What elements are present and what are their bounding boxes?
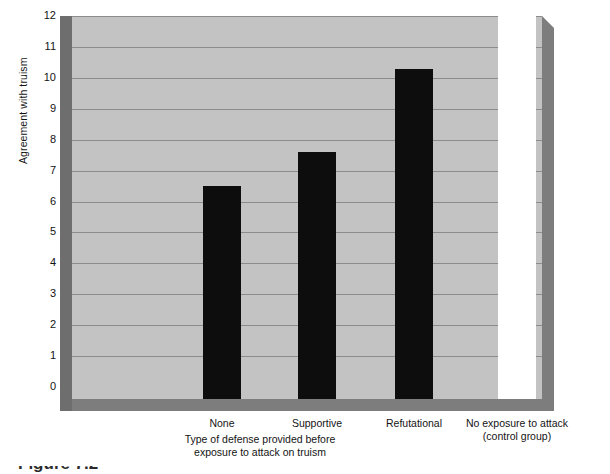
y-axis-tick-label: 3 bbox=[30, 287, 56, 300]
y-axis-tick-label: 6 bbox=[30, 195, 56, 208]
x-axis-title: Type of defense provided before exposure… bbox=[130, 433, 390, 459]
bar bbox=[298, 152, 336, 399]
plot-area bbox=[72, 16, 542, 399]
gridline bbox=[72, 109, 542, 110]
y-axis-tick-label: 7 bbox=[30, 164, 56, 177]
bar bbox=[203, 186, 241, 399]
gridline bbox=[72, 140, 542, 141]
x-axis-tick-label: No exposure to attack(control group) bbox=[442, 417, 592, 443]
y-axis-tick-label: 5 bbox=[30, 225, 56, 238]
y-axis-tick-label: 11 bbox=[30, 40, 56, 53]
y-axis-tick-label: 4 bbox=[30, 256, 56, 269]
y-axis-tick-label: 10 bbox=[30, 71, 56, 84]
y-axis-tick-labels: 1211109876543210 bbox=[30, 24, 56, 401]
gridline bbox=[72, 47, 542, 48]
bar bbox=[498, 16, 536, 399]
x-axis-tick-label-line: (control group) bbox=[442, 430, 592, 443]
bar-chart-figure: Agreement with truism 1211109876543210 N… bbox=[0, 0, 610, 474]
x-axis-tick-label-line: No exposure to attack bbox=[466, 417, 568, 429]
gridline bbox=[72, 78, 542, 79]
x-axis-title-line-2: exposure to attack on truism bbox=[130, 446, 390, 459]
y-axis-tick-label: 2 bbox=[30, 318, 56, 331]
bar bbox=[395, 69, 433, 399]
y-axis-tick-label: 0 bbox=[30, 380, 56, 393]
plot-frame-bottom-bevel bbox=[60, 399, 554, 411]
y-axis-tick-label: 8 bbox=[30, 133, 56, 146]
figure-caption: Figure 7.2 bbox=[18, 466, 218, 474]
y-axis-tick-label: 9 bbox=[30, 102, 56, 115]
x-axis-title-line-1: Type of defense provided before bbox=[185, 433, 336, 445]
y-axis-title: Agreement with truism bbox=[17, 4, 31, 164]
figure-caption-text: Figure 7.2 bbox=[18, 466, 98, 474]
y-axis-tick-label: 1 bbox=[30, 349, 56, 362]
plot-frame bbox=[60, 16, 554, 411]
x-axis-tick-label-line: None bbox=[209, 417, 234, 429]
x-axis-tick-label-line: Refutational bbox=[386, 417, 442, 429]
y-axis-tick-label: 12 bbox=[30, 9, 56, 22]
gridline bbox=[72, 16, 542, 17]
plot-frame-left-bevel bbox=[60, 16, 72, 411]
x-axis-tick-label-line: Supportive bbox=[292, 417, 342, 429]
plot-frame-right-bevel bbox=[542, 16, 554, 411]
